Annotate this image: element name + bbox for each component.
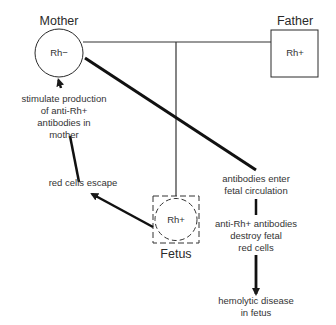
red-cells-escape-arrow — [92, 194, 153, 227]
mother-label: Mother — [24, 14, 94, 28]
red-cells-escape-text: red cells escape — [28, 177, 138, 189]
antibodies-enter-line-1: antibodies enter — [201, 173, 311, 185]
disease-line-2: in fetus — [201, 307, 311, 319]
stimulate-line-3: antibodies in — [4, 117, 124, 129]
stimulate-text: stimulate production of anti-Rh+ antibod… — [4, 93, 124, 141]
destroy-text: anti-Rh+ antibodies destroy fetal red ce… — [196, 218, 316, 254]
destroy-line-1: anti-Rh+ antibodies — [196, 218, 316, 230]
stimulate-line-2: of anti-Rh+ — [4, 105, 124, 117]
stimulate-line-4: mother — [4, 129, 124, 141]
disease-line-1: hemolytic disease — [201, 295, 311, 307]
father-genotype: Rh+ — [270, 47, 320, 59]
stimulate-line-1: stimulate production — [4, 93, 124, 105]
destroy-line-2: destroy fetal — [196, 230, 316, 242]
fetus-genotype: Rh+ — [151, 214, 201, 226]
escape-to-stimulate-line — [70, 136, 79, 182]
antibodies-enter-text: antibodies enter fetal circulation — [201, 173, 311, 197]
destroy-line-3: red cells — [196, 242, 316, 254]
mother-genotype: Rh− — [34, 47, 84, 59]
father-label: Father — [260, 14, 330, 28]
antibodies-enter-line-2: fetal circulation — [201, 185, 311, 197]
stimulate-to-mother-arrow — [59, 80, 62, 88]
disease-text: hemolytic disease in fetus — [201, 295, 311, 319]
